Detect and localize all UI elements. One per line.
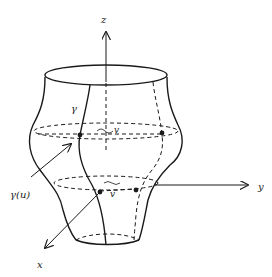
z-axis-label: z <box>100 14 107 25</box>
lower-angle-label: v <box>110 189 115 199</box>
lower-radius-line <box>100 189 136 191</box>
gamma-u-pointer <box>31 144 71 177</box>
x-axis-label: x <box>37 259 43 270</box>
back-meridian <box>134 82 163 240</box>
bottom-rim-front <box>76 240 139 245</box>
lower-parallel <box>54 176 158 190</box>
point-upper-back <box>160 131 165 136</box>
x-axis <box>45 192 100 248</box>
y-axis-label: y <box>257 181 264 192</box>
upper-angle-arc <box>97 129 113 133</box>
gamma-label: γ <box>71 103 77 114</box>
point-lower-back <box>134 188 139 193</box>
surface-of-revolution-diagram: z y x γ(u) γ v v <box>0 0 272 277</box>
profile-curve-gamma <box>79 85 106 245</box>
point-upper-front <box>78 133 83 138</box>
gamma-u-label: γ(u) <box>10 189 30 200</box>
right-silhouette <box>139 77 182 240</box>
upper-angle-label: v <box>114 125 119 135</box>
bottom-rim-back <box>76 234 139 240</box>
lower-angle-arc <box>104 182 120 185</box>
